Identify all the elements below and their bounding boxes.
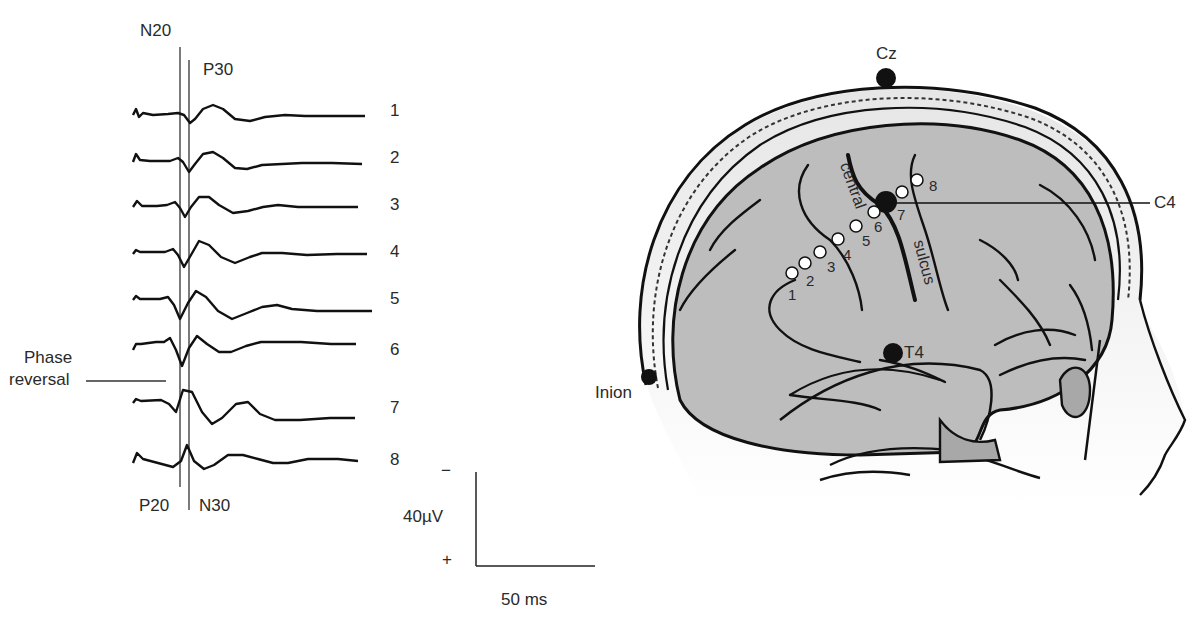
trace-number-7: 7 <box>390 398 399 418</box>
contact-number-3: 3 <box>827 258 835 275</box>
p30-label: P30 <box>203 60 233 80</box>
trace-number-6: 6 <box>390 340 399 360</box>
p20-label: P20 <box>139 496 169 516</box>
contact-6 <box>868 206 880 218</box>
trace-number-8: 8 <box>390 450 399 470</box>
contact-number-2: 2 <box>806 272 814 289</box>
trace-3 <box>133 197 358 217</box>
contact-7 <box>896 186 908 198</box>
contact-number-4: 4 <box>843 246 851 263</box>
sep-traces-figure <box>0 0 600 618</box>
n30-label: N30 <box>199 496 230 516</box>
scale-amplitude-label: 40µV <box>403 507 443 527</box>
brain <box>673 124 1113 455</box>
head-silhouette <box>640 89 1185 505</box>
inion-electrode <box>641 369 657 385</box>
skull-outer <box>640 87 1142 385</box>
n20-label: N20 <box>140 21 171 41</box>
sylvian-fissure <box>780 364 992 440</box>
contact-4 <box>832 233 844 245</box>
c4-electrode <box>875 191 897 213</box>
contact-1 <box>786 267 798 279</box>
trace-number-1: 1 <box>390 101 399 121</box>
contact-number-7: 7 <box>897 206 905 223</box>
t4-label: T4 <box>904 343 924 363</box>
sulcus-label: sulcus <box>910 238 939 286</box>
trace-8 <box>133 445 358 469</box>
trace-2 <box>133 152 362 172</box>
contact-8 <box>911 174 923 186</box>
contact-2 <box>799 257 811 269</box>
trace-number-3: 3 <box>390 195 399 215</box>
cz-label: Cz <box>876 44 897 64</box>
trace-7 <box>133 390 355 424</box>
t4-electrode <box>883 343 903 363</box>
contact-number-5: 5 <box>862 232 870 249</box>
inion-label: Inion <box>595 383 632 403</box>
trace-number-4: 4 <box>390 242 399 262</box>
cz-electrode <box>876 68 896 88</box>
phase-label: Phase <box>24 348 72 368</box>
trace-number-2: 2 <box>390 148 399 168</box>
skull-middle <box>653 98 1130 388</box>
skull-inner <box>664 108 1120 390</box>
scale-plus-label: + <box>442 550 452 570</box>
contact-number-1: 1 <box>788 286 796 303</box>
trace-1 <box>133 105 365 123</box>
contact-5 <box>850 220 862 232</box>
trace-number-5: 5 <box>390 289 399 309</box>
trace-6 <box>133 336 356 366</box>
c4-label: C4 <box>1154 193 1176 213</box>
reversal-label: reversal <box>9 370 69 390</box>
trace-4 <box>133 241 367 267</box>
scale-minus-label: − <box>441 461 451 481</box>
contact-number-8: 8 <box>929 177 937 194</box>
scale-time-label: 50 ms <box>501 590 547 610</box>
contact-3 <box>814 246 826 258</box>
central-label: central <box>836 160 869 211</box>
trace-5 <box>133 291 372 319</box>
contact-number-6: 6 <box>874 218 882 235</box>
